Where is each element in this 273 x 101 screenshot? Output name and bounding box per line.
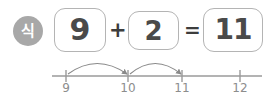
number-line-tick-label: 9 [62, 82, 70, 94]
addend-1-box[interactable]: 9 [54, 8, 106, 52]
number-line-tick-label: 10 [120, 82, 135, 94]
number-line-tick-label: 12 [232, 82, 247, 94]
equals-operator: = [184, 20, 201, 40]
equation-badge: 식 [13, 16, 43, 46]
worksheet-equation-panel: 식 9 + 2 = 11 9101112 [0, 0, 273, 101]
addend-2-value: 2 [144, 18, 162, 44]
sum-value: 11 [215, 16, 252, 44]
plus-operator: + [109, 20, 127, 41]
equation-badge-label: 식 [21, 24, 35, 39]
number-line-hop-arc [68, 64, 127, 75]
sum-box[interactable]: 11 [203, 8, 263, 52]
addend-1-value: 9 [70, 15, 91, 45]
number-line-hop-arc [130, 64, 181, 75]
number-line-tick-label: 11 [174, 82, 189, 94]
addend-2-box[interactable]: 2 [128, 11, 179, 50]
